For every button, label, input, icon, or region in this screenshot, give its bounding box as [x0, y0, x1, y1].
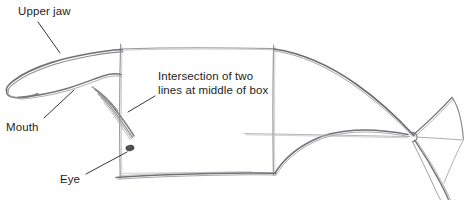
eye-mark — [125, 144, 134, 151]
construction-box — [120, 44, 275, 178]
fish-construction-drawing — [0, 0, 464, 200]
annotation-label-mouth: Mouth — [6, 120, 38, 134]
gill-lines — [92, 87, 134, 140]
leader-upper-jaw — [38, 22, 60, 53]
tail-fin — [410, 97, 463, 200]
sketch-canvas: Upper jaw Intersection of two lines at m… — [0, 0, 464, 200]
leader-eye — [86, 152, 127, 174]
annotation-label-eye: Eye — [60, 172, 80, 186]
leader-intersection — [128, 96, 155, 112]
annotation-label-intersection: Intersection of two lines at middle of b… — [158, 69, 268, 97]
leader-mouth — [44, 90, 74, 118]
annotation-label-upper-jaw: Upper jaw — [18, 4, 71, 18]
leader-lines — [38, 22, 155, 174]
